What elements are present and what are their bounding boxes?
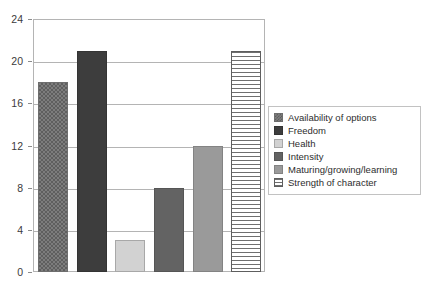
y-tick-mark	[28, 103, 32, 104]
y-tick-label: 0	[17, 267, 23, 278]
y-tick-mark	[28, 61, 32, 62]
legend-swatch-horizontal-lines-icon	[274, 178, 283, 187]
y-tick-label: 20	[11, 56, 23, 67]
y-tick-mark	[28, 230, 32, 231]
legend-label: Maturing/growing/learning	[288, 163, 397, 176]
legend-swatch-solid-icon	[274, 126, 283, 135]
legend-item-freedom[interactable]: Freedom	[274, 124, 415, 137]
y-tick-mark	[28, 19, 32, 20]
y-tick-mark	[28, 272, 32, 273]
legend-label: Health	[288, 137, 315, 150]
legend-item-maturing-growing-learning[interactable]: Maturing/growing/learning	[274, 163, 415, 176]
bar-strength-of-character[interactable]	[231, 51, 261, 272]
bar-availability-of-options[interactable]	[38, 82, 68, 272]
legend-swatch-checkered-icon	[274, 113, 283, 122]
legend-item-availability-of-options[interactable]: Availability of options	[274, 111, 415, 124]
y-tick-mark	[28, 146, 32, 147]
legend-swatch-solid-icon	[274, 152, 283, 161]
legend-swatch-solid-icon	[274, 139, 283, 148]
bar-health[interactable]	[115, 240, 145, 272]
y-tick-label: 24	[11, 14, 23, 25]
bar-maturing-growing-learning[interactable]	[193, 146, 223, 273]
bar-freedom[interactable]	[77, 51, 107, 272]
legend-item-strength-of-character[interactable]: Strength of character	[274, 176, 415, 189]
bar-intensity[interactable]	[154, 188, 184, 272]
legend-swatch-solid-icon	[274, 165, 283, 174]
bar-chart: 24 20 16 12 8 4 0	[0, 0, 437, 303]
y-axis: 24 20 16 12 8 4 0	[0, 19, 28, 272]
y-tick-label: 12	[11, 140, 23, 151]
y-tick-mark	[28, 188, 32, 189]
legend-item-health[interactable]: Health	[274, 137, 415, 150]
y-tick-label: 4	[17, 225, 23, 236]
legend-label: Intensity	[288, 150, 323, 163]
legend: Availability of options Freedom Health I…	[268, 106, 421, 195]
legend-label: Strength of character	[288, 176, 377, 189]
legend-item-intensity[interactable]: Intensity	[274, 150, 415, 163]
legend-label: Availability of options	[288, 111, 377, 124]
legend-label: Freedom	[288, 124, 326, 137]
y-tick-label: 16	[11, 98, 23, 109]
y-tick-label: 8	[17, 182, 23, 193]
bars-layer	[33, 19, 265, 272]
